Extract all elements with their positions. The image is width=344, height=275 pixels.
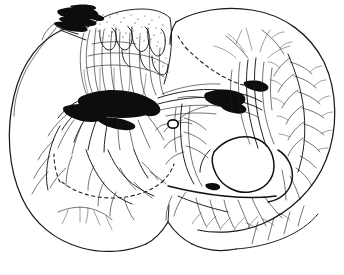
figure-canvas: transverse section of a bilobed nervous-…: [0, 0, 344, 275]
anatomical-line-drawing: [0, 0, 344, 275]
